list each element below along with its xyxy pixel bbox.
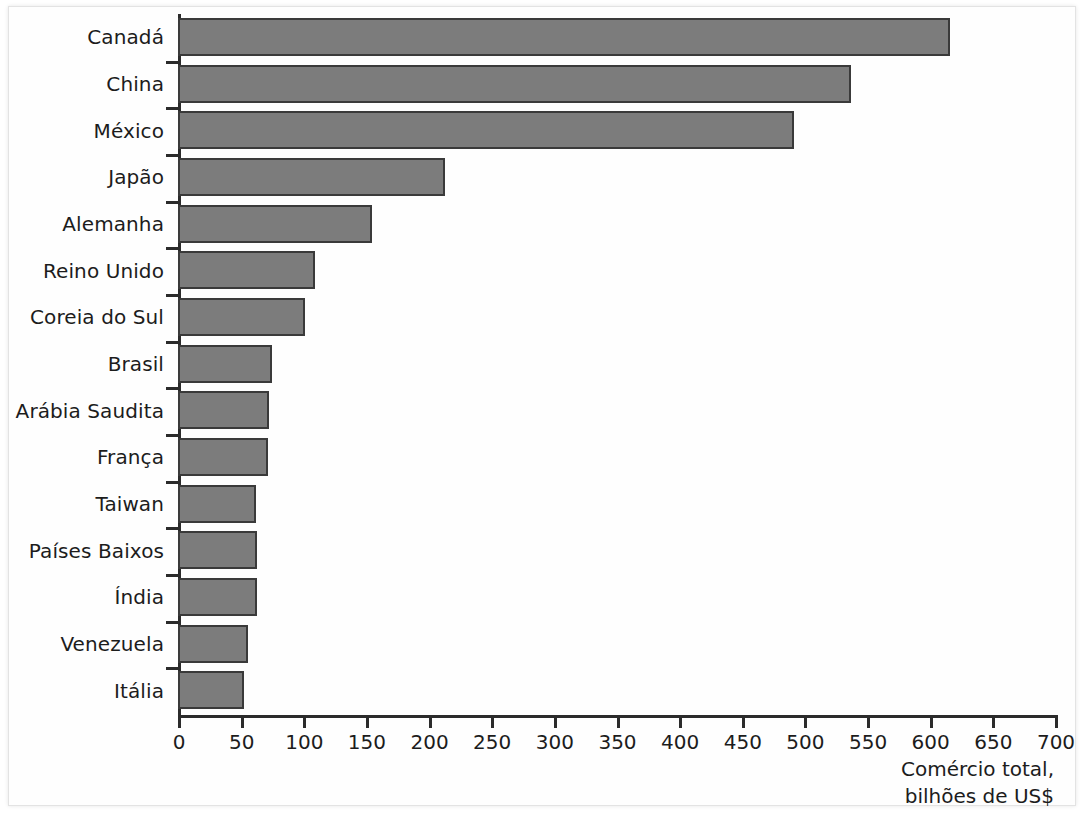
y-axis-tick xyxy=(166,61,178,64)
bar-row: México xyxy=(178,107,1055,154)
x-axis-tick-label: 200 xyxy=(410,730,448,754)
bar xyxy=(178,625,248,663)
category-label: Japão xyxy=(108,165,164,189)
y-axis-tick xyxy=(166,434,178,437)
x-axis-tick-label: 550 xyxy=(849,730,887,754)
bar xyxy=(178,205,372,243)
x-axis-tick-label: 700 xyxy=(1037,730,1075,754)
x-axis-tick-label: 0 xyxy=(173,730,186,754)
x-axis-tick xyxy=(241,715,244,728)
bar-row: Taiwan xyxy=(178,481,1055,528)
x-axis-tick xyxy=(178,715,181,728)
bar-row: Arábia Saudita xyxy=(178,387,1055,434)
category-label: Países Baixos xyxy=(29,539,164,563)
x-axis-title-line1: Comércio total, xyxy=(754,756,1054,783)
category-label: Alemanha xyxy=(62,212,164,236)
category-label: Brasil xyxy=(108,352,164,376)
bar xyxy=(178,65,851,103)
bar-row: Reino Unido xyxy=(178,247,1055,294)
bar xyxy=(178,111,794,149)
plot-area: CanadáChinaMéxicoJapãoAlemanhaReino Unid… xyxy=(178,14,1055,714)
x-axis-tick xyxy=(742,715,745,728)
y-axis-tick xyxy=(166,527,178,530)
x-axis-tick-label: 150 xyxy=(348,730,386,754)
x-axis-tick-label: 500 xyxy=(786,730,824,754)
y-axis-tick xyxy=(166,154,178,157)
category-label: Taiwan xyxy=(95,492,164,516)
category-label: China xyxy=(106,72,164,96)
bar xyxy=(178,438,268,476)
x-axis-tick xyxy=(366,715,369,728)
x-axis-title: Comércio total, bilhões de US$ xyxy=(754,756,1054,810)
x-axis-tick xyxy=(1055,715,1058,728)
x-axis-tick-label: 300 xyxy=(536,730,574,754)
y-axis-tick xyxy=(166,294,178,297)
x-axis-tick-label: 100 xyxy=(285,730,323,754)
y-axis-tick xyxy=(166,481,178,484)
x-axis-tick-label: 250 xyxy=(473,730,511,754)
bar-row: Japão xyxy=(178,154,1055,201)
x-axis-tick xyxy=(930,715,933,728)
bar-row: Itália xyxy=(178,667,1055,714)
x-axis-tick-label: 600 xyxy=(912,730,950,754)
x-axis-tick xyxy=(867,715,870,728)
bar xyxy=(178,251,315,289)
bar-row: França xyxy=(178,434,1055,481)
chart-figure: CanadáChinaMéxicoJapãoAlemanhaReino Unid… xyxy=(0,0,1090,820)
x-axis-tick-label: 650 xyxy=(974,730,1012,754)
y-axis-tick xyxy=(166,667,178,670)
x-axis-tick xyxy=(617,715,620,728)
category-label: França xyxy=(97,445,164,469)
bar-row: Países Baixos xyxy=(178,527,1055,574)
y-axis-tick xyxy=(166,201,178,204)
x-axis-tick xyxy=(491,715,494,728)
bar xyxy=(178,531,257,569)
bar xyxy=(178,158,445,196)
x-axis-tick xyxy=(804,715,807,728)
y-axis-tick xyxy=(166,621,178,624)
x-axis-tick xyxy=(429,715,432,728)
bar xyxy=(178,391,269,429)
bar-row: Índia xyxy=(178,574,1055,621)
bar xyxy=(178,578,257,616)
y-axis-tick xyxy=(166,387,178,390)
category-label: Itália xyxy=(114,679,164,703)
bar xyxy=(178,345,272,383)
bar-row: Canadá xyxy=(178,14,1055,61)
bar xyxy=(178,671,244,709)
bar-row: Alemanha xyxy=(178,201,1055,248)
x-axis-tick-label: 400 xyxy=(661,730,699,754)
bar-row: Brasil xyxy=(178,341,1055,388)
x-axis-title-line2: bilhões de US$ xyxy=(754,783,1054,810)
category-label: Índia xyxy=(114,585,164,609)
x-axis-tick xyxy=(992,715,995,728)
category-label: Arábia Saudita xyxy=(16,399,164,423)
bar xyxy=(178,485,256,523)
category-label: Venezuela xyxy=(60,632,164,656)
y-axis-tick xyxy=(166,107,178,110)
category-label: México xyxy=(94,119,164,143)
category-label: Coreia do Sul xyxy=(30,305,164,329)
bar xyxy=(178,18,950,56)
y-axis-tick xyxy=(166,341,178,344)
category-label: Canadá xyxy=(87,25,164,49)
bar-rows: CanadáChinaMéxicoJapãoAlemanhaReino Unid… xyxy=(178,14,1055,714)
y-axis-tick xyxy=(166,574,178,577)
x-axis-tick-label: 50 xyxy=(229,730,254,754)
category-label: Reino Unido xyxy=(43,259,164,283)
y-axis-tick xyxy=(166,247,178,250)
bar-row: Venezuela xyxy=(178,621,1055,668)
bar-row: Coreia do Sul xyxy=(178,294,1055,341)
x-axis-tick xyxy=(679,715,682,728)
bar xyxy=(178,298,305,336)
x-axis-tick-label: 450 xyxy=(724,730,762,754)
bar-row: China xyxy=(178,61,1055,108)
x-axis-tick xyxy=(554,715,557,728)
x-axis-tick xyxy=(303,715,306,728)
x-axis-tick-label: 350 xyxy=(598,730,636,754)
